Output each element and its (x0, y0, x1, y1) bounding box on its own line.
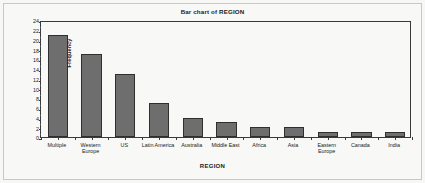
bar-slot (108, 22, 142, 137)
chart-title: Bar chart of REGION (0, 8, 425, 15)
x-tick-mark (159, 137, 160, 140)
bar (216, 122, 236, 137)
bar (149, 103, 169, 137)
bar (318, 132, 338, 137)
x-tick-label: Eastern Europe (310, 142, 344, 155)
x-tick-mark (142, 137, 143, 140)
bar (250, 127, 270, 137)
x-tick-mark (92, 137, 93, 140)
bar-slot (142, 22, 176, 137)
bar (115, 74, 135, 137)
x-tick-mark (210, 137, 211, 140)
bar-slot (378, 22, 412, 137)
bar (81, 54, 101, 137)
x-tick-mark (227, 137, 228, 140)
bar (351, 132, 371, 137)
x-tick-label: US (107, 142, 141, 148)
x-tick-label: Middle East (209, 142, 243, 148)
bar-slot (277, 22, 311, 137)
x-tick-label: Latin America (141, 142, 175, 148)
x-tick-label: Asia (276, 142, 310, 148)
x-tick-mark (277, 137, 278, 140)
x-tick-label: Canada (344, 142, 378, 148)
x-tick-mark (176, 137, 177, 140)
x-tick-label: India (377, 142, 411, 148)
plot-area (41, 22, 410, 137)
x-tick-mark (395, 137, 396, 140)
x-tick-label: Multiple (40, 142, 74, 148)
x-tick-label: Australia (175, 142, 209, 148)
x-tick-mark (294, 137, 295, 140)
bar (48, 35, 68, 137)
bar-slot (75, 22, 109, 137)
bar-chart-figure: Bar chart of REGION Frequency 2422201816… (0, 0, 425, 183)
x-tick-mark (311, 137, 312, 140)
x-axis-label: REGION (0, 163, 425, 169)
x-tick-mark (412, 137, 413, 140)
bar-slot (243, 22, 277, 137)
bar-slot (345, 22, 379, 137)
bar (284, 127, 304, 137)
x-tick-label: Western Europe (74, 142, 108, 155)
bar-slot (210, 22, 244, 137)
x-tick-mark (193, 137, 194, 140)
x-tick-mark (125, 137, 126, 140)
x-tick-mark (378, 137, 379, 140)
x-tick-mark (75, 137, 76, 140)
bar (183, 118, 203, 138)
x-tick-label: Africa (242, 142, 276, 148)
x-tick-mark (243, 137, 244, 140)
bar (385, 132, 405, 137)
x-tick-mark (345, 137, 346, 140)
x-tick-mark (328, 137, 329, 140)
x-tick-mark (58, 137, 59, 140)
bar-slot (311, 22, 345, 137)
bar-slot (41, 22, 75, 137)
x-tick-mark (41, 137, 42, 140)
x-tick-mark (361, 137, 362, 140)
bar-slot (176, 22, 210, 137)
x-tick-mark (260, 137, 261, 140)
plot-frame: Frequency 242220181614121086420 (40, 21, 411, 138)
x-tick-mark (108, 137, 109, 140)
